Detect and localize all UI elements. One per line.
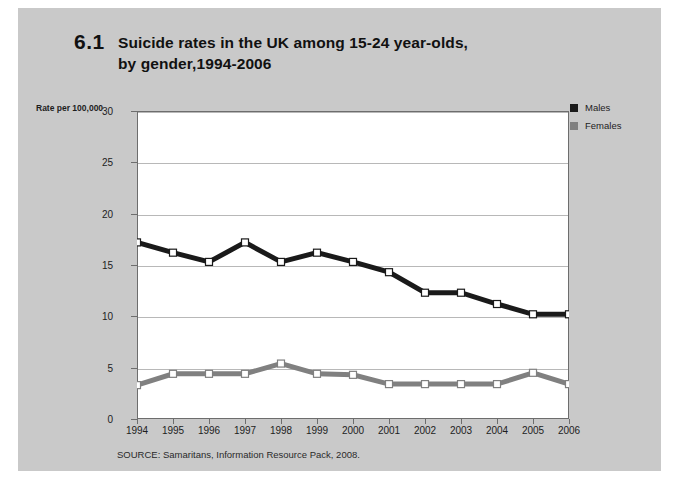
x-tick-mark [389, 419, 390, 424]
legend-item-females: Females [570, 118, 660, 133]
chart-legend: Males Females [570, 100, 660, 136]
x-tick-mark [353, 419, 354, 424]
x-tick-mark [425, 419, 426, 424]
figure-title: Suicide rates in the UK among 15-24 year… [118, 32, 468, 74]
data-point-marker [422, 289, 429, 296]
x-tick-mark [137, 419, 138, 424]
data-point-marker [530, 369, 537, 376]
figure-title-line-2: by gender,1994-2006 [118, 53, 468, 74]
data-point-marker [350, 258, 357, 265]
data-point-marker [314, 370, 321, 377]
x-tick-mark [461, 419, 462, 424]
x-tick-mark [173, 419, 174, 424]
x-tick-mark [569, 419, 570, 424]
figure-title-line-1: Suicide rates in the UK among 15-24 year… [118, 32, 468, 53]
plot-wrapper: 0510152025301994199519961997199819992000… [114, 103, 574, 423]
data-point-marker [278, 258, 285, 265]
data-point-marker [350, 371, 357, 378]
x-tick-mark [281, 419, 282, 424]
y-tick-label: 15 [79, 260, 113, 271]
data-point-marker [206, 258, 213, 265]
x-tick-mark [245, 419, 246, 424]
data-point-marker [530, 311, 537, 318]
data-point-marker [206, 370, 213, 377]
data-point-marker [386, 381, 393, 388]
x-tick-mark [209, 419, 210, 424]
figure-number: 6.1 [74, 30, 105, 54]
data-point-marker [494, 381, 501, 388]
data-point-marker [386, 269, 393, 276]
y-tick-label: 25 [79, 157, 113, 168]
chart-canvas [137, 111, 569, 419]
legend-item-males: Males [570, 100, 660, 115]
y-tick-label: 0 [79, 414, 113, 425]
data-point-marker [137, 239, 141, 246]
series-line-males [137, 242, 569, 314]
data-point-marker [422, 381, 429, 388]
data-point-marker [566, 311, 570, 318]
data-point-marker [566, 381, 570, 388]
y-tick-label: 10 [79, 311, 113, 322]
y-tick-label: 20 [79, 208, 113, 219]
y-tick-label: 5 [79, 362, 113, 373]
legend-label-males: Males [585, 102, 610, 113]
data-point-marker [494, 301, 501, 308]
x-tick-mark [533, 419, 534, 424]
data-point-marker [170, 249, 177, 256]
data-point-marker [137, 382, 141, 389]
data-point-marker [458, 381, 465, 388]
x-tick-mark [317, 419, 318, 424]
data-point-marker [314, 249, 321, 256]
x-tick-mark [497, 419, 498, 424]
y-tick-label: 30 [79, 106, 113, 117]
figure-page: 6.1 Suicide rates in the UK among 15-24 … [18, 8, 661, 471]
source-note: SOURCE: Samaritans, Information Resource… [117, 449, 360, 460]
data-point-marker [458, 289, 465, 296]
data-point-marker [278, 360, 285, 367]
legend-label-females: Females [585, 120, 621, 131]
data-point-marker [170, 370, 177, 377]
x-tick-label: 2006 [547, 425, 591, 436]
data-point-marker [242, 239, 249, 246]
data-point-marker [242, 370, 249, 377]
